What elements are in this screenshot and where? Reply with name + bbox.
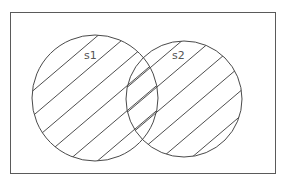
set-s1-label: s1 xyxy=(84,49,97,62)
set-s2-label: s2 xyxy=(172,49,185,62)
universe-rectangle xyxy=(11,13,276,174)
venn-diagram: s1 s2 xyxy=(0,0,286,186)
